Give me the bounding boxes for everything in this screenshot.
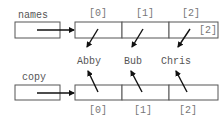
top-array-cell-0	[75, 22, 122, 38]
bottom-index-1: [1]	[134, 105, 152, 116]
string-bub: Bub	[124, 56, 142, 67]
top-cell-2-inner-label: [2]	[199, 25, 217, 36]
top-index-2: [2]	[182, 8, 200, 19]
bottom-array-cell-0	[75, 85, 122, 100]
top-index-0: [0]	[89, 8, 107, 19]
names-variable-label: names	[18, 10, 48, 21]
copy-variable-label: copy	[22, 72, 46, 83]
bottom-index-0: [0]	[89, 105, 107, 116]
top-array-cell-1	[122, 22, 169, 38]
string-chris: Chris	[161, 56, 191, 67]
string-abby: Abby	[77, 56, 101, 67]
top-index-1: [1]	[136, 8, 154, 19]
bottom-index-2: [2]	[179, 105, 197, 116]
array-reference-diagram: names [0] [1] [2] [2] Abby Bub Chris cop…	[0, 0, 224, 123]
bottom-array-cell-1	[122, 85, 169, 100]
bottom-array-cell-2	[169, 85, 218, 100]
